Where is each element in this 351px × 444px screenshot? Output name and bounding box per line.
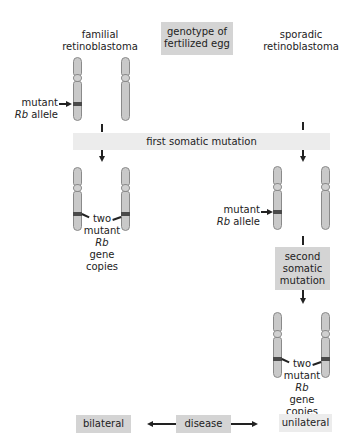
unilateral-box: unilateral [279, 414, 332, 432]
chromosome-familial-mid-1 [73, 167, 82, 231]
familial-label: familial retinoblastoma [55, 29, 145, 53]
sporadic-line2: retinoblastoma [256, 41, 346, 53]
arrow-line-left [152, 423, 176, 425]
genotype-box: genotype of fertilized egg [161, 22, 233, 55]
chromosome-familial-1 [73, 57, 82, 121]
genotype-line1: genotype of [161, 26, 233, 38]
mutant-word: mutant [82, 225, 122, 237]
mutant-word: mutant [14, 97, 58, 109]
two-mutant-label-left: two mutant Rb gene copies [82, 213, 122, 273]
chromosome-sporadic-bot-1 [273, 312, 282, 378]
two-word: two [82, 213, 122, 225]
second-line2: somatic [275, 263, 330, 275]
two-word: two [282, 358, 322, 370]
mutant-word: mutant [282, 370, 322, 382]
arrow-line-right [231, 423, 253, 425]
two-mutant-label-right: two mutant Rb gene copies [282, 358, 322, 418]
arrow-right-icon [267, 209, 273, 215]
mutant-band [73, 102, 82, 106]
chromosome-sporadic-bot-2 [321, 312, 330, 378]
chromosome-familial-2 [121, 57, 130, 121]
familial-line2: retinoblastoma [55, 41, 145, 53]
connector-line [302, 236, 304, 245]
rb-allele: Rb allele [14, 109, 58, 121]
bilateral-box: bilateral [76, 415, 131, 433]
disease-box: disease [176, 415, 231, 433]
mutant-allele-label-right: mutant Rb allele [216, 204, 260, 228]
arrow-right-icon [66, 101, 72, 107]
mutant-band [121, 212, 130, 216]
rb-gene: Rb gene [282, 382, 322, 406]
connector-line-right [302, 122, 304, 130]
mutant-band [321, 357, 330, 361]
mutant-allele-label-left: mutant Rb allele [14, 97, 58, 121]
chromosome-familial-mid-2 [121, 167, 130, 231]
sporadic-line1: sporadic [256, 29, 346, 41]
arrow-down-icon [300, 156, 306, 162]
arrow-right-icon [252, 421, 258, 427]
copies-word: copies [82, 261, 122, 273]
genotype-line2: fertilized egg [161, 38, 233, 50]
first-somatic-mutation-bar: first somatic mutation [73, 133, 330, 150]
mutant-band [273, 210, 282, 214]
rb-allele: Rb allele [216, 216, 260, 228]
arrow-left-icon [147, 421, 153, 427]
rb-gene: Rb gene [82, 237, 122, 261]
second-somatic-mutation-box: second somatic mutation [275, 247, 330, 290]
chromosome-sporadic-mid-2 [321, 166, 330, 230]
familial-line1: familial [55, 29, 145, 41]
sporadic-label: sporadic retinoblastoma [256, 29, 346, 53]
second-line1: second [275, 251, 330, 263]
chromosome-sporadic-mid-1 [273, 166, 282, 230]
connector-line-left [101, 124, 103, 132]
second-line3: mutation [275, 275, 330, 287]
arrow-down-icon [300, 298, 306, 304]
mutant-word: mutant [216, 204, 260, 216]
arrow-down-icon [99, 156, 105, 162]
